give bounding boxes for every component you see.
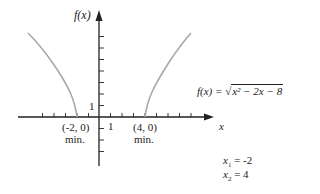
- y-tick-label-one: 1: [89, 101, 95, 112]
- point-note-left: min.: [65, 134, 85, 145]
- x1-value: = -2: [231, 154, 252, 166]
- y-axis-arrow-icon: [96, 10, 103, 21]
- curve-left-branch: [28, 33, 77, 117]
- point-label-right: (4, 0): [133, 122, 157, 133]
- y-ticks: [99, 37, 104, 152]
- formula-lhs: f(x) =: [197, 85, 225, 97]
- y-axis-label: f(x): [74, 9, 91, 21]
- x-tick-label-one: 1: [108, 121, 114, 132]
- x2-result: x2 = 4: [223, 169, 249, 183]
- function-formula: f(x) = √x² − 2x − 8: [197, 84, 283, 97]
- x-axis-label: x: [219, 121, 224, 132]
- formula-radicand: x² − 2x − 8: [231, 84, 283, 97]
- x-axis-arrow-icon: [204, 114, 214, 121]
- point-label-left: (-2, 0): [62, 122, 90, 133]
- x2-value: = 4: [231, 168, 248, 180]
- point-note-right: min.: [134, 134, 154, 145]
- curve-right-branch: [145, 33, 191, 117]
